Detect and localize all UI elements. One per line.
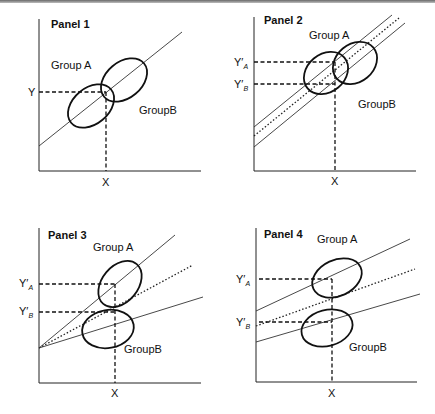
panel-2: Panel 2 Group A GroupB Y′A Y′B X	[234, 14, 416, 187]
group-a-label: Group A	[93, 241, 134, 253]
group-b-label: GroupB	[358, 98, 396, 110]
panel-4: Panel 4 Group A GroupB Y′A Y′B X	[236, 228, 420, 399]
group-a-label: Group A	[51, 59, 92, 71]
y-a-label: Y′A	[236, 273, 250, 287]
group-b-label: GroupB	[349, 341, 387, 353]
group-a-ellipse	[60, 75, 123, 136]
group-b-line	[254, 23, 405, 147]
panel-3: Panel 3 Group A GroupB Y′A Y′B X	[19, 228, 203, 399]
group-b-label: GroupB	[139, 104, 177, 116]
panel-title: Panel 2	[264, 14, 303, 26]
group-b-line	[256, 294, 420, 342]
group-b-ellipse	[93, 49, 156, 110]
regression-panels-figure: Panel 1 Group A GroupB Y X Panel 2 Group…	[0, 0, 435, 414]
group-a-line	[256, 239, 410, 311]
x-label: X	[328, 387, 336, 399]
panel-title: Panel 4	[264, 228, 303, 240]
group-a-label: Group A	[317, 233, 358, 245]
y-b-label: Y′B	[236, 316, 250, 330]
group-b-label: GroupB	[124, 343, 162, 355]
panel-title: Panel 1	[51, 18, 90, 30]
group-a-label: Group A	[309, 29, 350, 41]
y-b-label: Y′B	[19, 305, 33, 319]
x-label: X	[331, 175, 339, 187]
group-a-ellipse	[295, 43, 356, 103]
panel-title: Panel 3	[48, 229, 87, 241]
group-a-ellipse	[306, 251, 368, 306]
x-label: X	[111, 387, 119, 399]
panel-1: Panel 1 Group A GroupB Y X	[28, 18, 201, 188]
y-label: Y	[28, 86, 36, 98]
x-label: X	[102, 176, 110, 188]
group-b-ellipse	[297, 304, 357, 352]
y-b-label: Y′B	[234, 78, 248, 92]
y-a-label: Y′A	[234, 56, 248, 70]
y-a-label: Y′A	[19, 277, 33, 291]
